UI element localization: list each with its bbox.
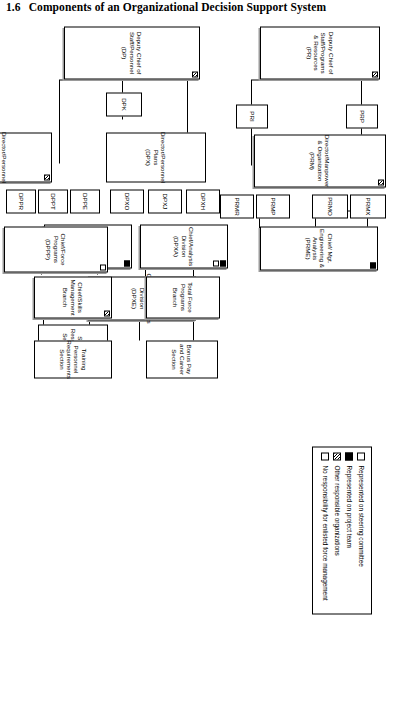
connector: [59, 79, 60, 163]
node-prp[interactable]: PRP: [346, 104, 378, 128]
node-label: Training Personnel Requirements Section: [58, 340, 88, 379]
node-dppr[interactable]: DPPR: [6, 189, 36, 213]
node-label: Total Force Programs Branch: [172, 278, 194, 316]
node-label: Chief/Analysis Division (DPXA): [173, 226, 195, 266]
node-label: Deputy Chief of Staff/Programs & Resourc…: [305, 28, 335, 77]
node-dppp[interactable]: Chief/Force Programs (DPPP): [4, 226, 108, 272]
page-title-text: Components of an Organizational Decision…: [29, 1, 327, 13]
node-dpxj[interactable]: DPXJ: [148, 189, 182, 213]
node-label: DPXO: [123, 192, 130, 210]
node-label: Director/Personnel Plans (DPX): [145, 131, 167, 182]
node-prmx[interactable]: PRMX: [350, 194, 386, 218]
node-dppe[interactable]: DPPE: [70, 189, 100, 213]
legend-swatch-hatch-icon: [334, 452, 342, 460]
legend-item: No responsibility for enlisted force man…: [320, 452, 331, 608]
node-pri[interactable]: PRI: [236, 104, 268, 128]
node-prmo[interactable]: PRMO: [312, 194, 348, 218]
node-dpxa[interactable]: Chief/Analysis Division (DPXA): [140, 224, 228, 268]
node-label: Director/Personnel Programs (DPP): [0, 131, 8, 182]
org-chart-canvas: Deputy Chief of Staff/Programs & Resourc…: [0, 18, 408, 721]
node-label: PRMR: [233, 197, 240, 215]
marker-black-icon: [370, 262, 376, 268]
connector: [193, 318, 194, 340]
legend-item: Represented on steering committee: [356, 452, 367, 608]
node-dppt[interactable]: DPPT: [38, 189, 68, 213]
node-skills-management-branch[interactable]: Chief/Skills Management Branch: [34, 276, 112, 318]
node-label: Deputy Chief of Staff/Personnel (DP): [121, 28, 143, 77]
page-title-number: 1.6: [6, 1, 21, 13]
diagram-viewport: Deputy Chief of Staff/Programs & Resourc…: [0, 18, 408, 721]
node-label: Director/Manpower & Organization (PRM): [309, 134, 331, 186]
node-label: DPPE: [81, 193, 88, 210]
node-label: Chief/ Mgt. Engineering & Analysis (PRME…: [304, 228, 334, 268]
node-label: DPPR: [17, 192, 24, 209]
node-label: PRMO: [326, 197, 333, 216]
marker-black-icon: [124, 260, 130, 266]
node-prme[interactable]: Chief/ Mgt. Engineering & Analysis (PRME…: [260, 226, 378, 270]
marker-hatch-icon: [372, 71, 378, 77]
node-dpx[interactable]: Director/Personnel Plans (DPX): [106, 132, 206, 182]
page-title: 1.6Components of an Organizational Decis…: [6, 1, 406, 17]
node-prmr[interactable]: PRMR: [220, 194, 254, 218]
node-label: PRP: [358, 110, 365, 123]
node-total-force-programs-branch[interactable]: Total Force Programs Branch: [146, 276, 220, 318]
node-label: DPXH: [199, 192, 206, 209]
marker-hatch-icon: [44, 174, 50, 180]
legend-swatch-black-icon: [346, 452, 354, 460]
legend-label: Represented on project team: [346, 465, 354, 547]
node-label: DPPT: [49, 193, 56, 210]
marker-white-icon: [213, 260, 219, 266]
legend-item: Represented on project team: [344, 452, 355, 608]
node-training-personnel-requirements-section[interactable]: Training Personnel Requirements Section: [34, 340, 112, 378]
legend-label: Other responsible organizations: [334, 465, 342, 555]
legend-label: Represented on steering committee: [358, 465, 366, 566]
node-label: Chief/Force Programs (DPPP): [45, 228, 67, 270]
legend-label: No responsibility for enlisted force man…: [322, 465, 330, 600]
node-label: PRI: [248, 111, 255, 121]
marker-hatch-icon: [192, 71, 198, 77]
node-prmp[interactable]: PRMP: [256, 194, 290, 218]
node-dp[interactable]: Deputy Chief of Staff/Personnel (DP): [64, 26, 200, 79]
node-label: Chief/Skills Management Branch: [62, 278, 84, 316]
node-prm[interactable]: Director/Manpower & Organization (PRM): [254, 134, 386, 187]
legend-item: Other responsible organizations: [332, 452, 343, 608]
node-dpxh[interactable]: DPXH: [186, 189, 220, 213]
node-dpxo[interactable]: DPXO: [110, 189, 144, 213]
marker-black-icon: [220, 260, 226, 266]
marker-hatch-icon: [378, 179, 384, 185]
node-label: Bonus Pay and Career Section: [171, 342, 193, 376]
node-pr[interactable]: Deputy Chief of Staff/Programs & Resourc…: [260, 26, 380, 79]
marker-hatch-icon: [104, 310, 110, 316]
legend-swatch-white-icon: [358, 452, 366, 460]
legend-swatch-white-2-icon: [322, 452, 330, 460]
node-bonus-pay-career-section[interactable]: Bonus Pay and Career Section: [146, 340, 218, 378]
node-label: DPK: [120, 98, 127, 111]
node-dpp[interactable]: Director/Personnel Programs (DPP): [0, 132, 52, 182]
node-label: PRMX: [364, 197, 371, 215]
node-label: DPXJ: [161, 193, 168, 209]
node-label: PRMP: [269, 197, 276, 215]
legend: Represented on steering committee Repres…: [312, 446, 372, 614]
node-dpk[interactable]: DPK: [106, 92, 142, 116]
marker-white-icon: [100, 264, 106, 270]
